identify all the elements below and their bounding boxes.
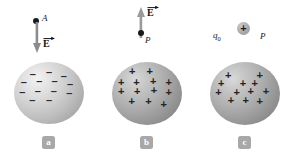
point-p-label: P	[260, 32, 266, 41]
charge-sign-minus: –	[19, 86, 25, 97]
charge-sign-plus: +	[240, 78, 246, 89]
charge-sign-plus: +	[147, 65, 153, 76]
panel-label-c-text: c	[243, 138, 247, 147]
physics-figure-electric-field: A E – – – – –	[0, 0, 293, 158]
panel-label-c: c	[238, 136, 251, 149]
charge-sign-plus: +	[151, 85, 157, 96]
charged-sphere-a: – – – – – – – – – – – – –	[14, 62, 84, 124]
charge-sign-plus: +	[233, 86, 239, 97]
charge-sign-plus: +	[165, 77, 171, 88]
charge-sign-minus: –	[66, 88, 72, 99]
charge-sign-plus: +	[256, 96, 262, 107]
panel-b: E P + + + + + + + + + + + + + b	[98, 0, 195, 158]
charge-sign-plus: +	[215, 86, 221, 97]
panel-label-b: b	[140, 136, 153, 149]
charge-sign-plus: +	[150, 75, 156, 86]
charge-sign-plus: +	[218, 78, 224, 89]
charge-sign-plus: +	[161, 99, 167, 110]
point-p-dot	[138, 30, 144, 36]
point-a-label: A	[42, 14, 48, 23]
panel-b-annotation: E P	[98, 0, 195, 58]
charge-sign-minus: –	[21, 77, 27, 88]
charge-sign-minus: –	[29, 95, 35, 106]
charge-sign-minus: –	[52, 75, 58, 86]
vector-arrow-overbar-icon	[147, 5, 159, 9]
panel-c: q0 + P + + + + + + + + + + + + c	[196, 0, 293, 158]
charge-sign-plus: +	[242, 95, 248, 106]
point-p-label: P	[145, 36, 151, 45]
charge-sign-plus: +	[263, 85, 269, 96]
charge-sign-plus: +	[118, 76, 124, 87]
charge-sign-plus: +	[225, 70, 231, 81]
panel-a: A E – – – – –	[0, 0, 97, 158]
charge-sign-plus: +	[145, 96, 151, 107]
test-charge-particle: +	[237, 22, 250, 35]
charge-sign-plus: +	[165, 86, 171, 97]
panel-label-b-text: b	[144, 138, 149, 147]
field-label-b: E	[147, 5, 159, 18]
charge-sign-minus: –	[30, 68, 36, 79]
charge-sign-minus: –	[61, 70, 67, 81]
charged-sphere-b: + + + + + + + + + + + + +	[112, 62, 182, 125]
charge-sign-plus: +	[252, 78, 258, 89]
charge-sign-minus: –	[51, 85, 57, 96]
charge-sign-minus: –	[36, 76, 42, 87]
charge-sign-minus: –	[35, 85, 41, 96]
charge-sign-minus: –	[46, 66, 52, 77]
field-arrow-down-icon	[33, 22, 41, 54]
charge-sign-plus: +	[129, 66, 135, 77]
vector-arrow-overbar-icon	[43, 36, 55, 40]
charge-sign-plus: +	[118, 85, 124, 96]
field-label-a: E	[43, 36, 55, 49]
charge-sign-minus: –	[46, 95, 52, 106]
charged-sphere-c: + + + + + + + + + + + +	[210, 62, 280, 125]
panel-a-annotation: A E	[0, 0, 97, 58]
test-charge-subscript: 0	[218, 35, 221, 42]
charge-sign-plus: +	[128, 96, 134, 107]
charge-sign-plus: +	[247, 85, 253, 96]
panel-label-a-text: a	[46, 138, 51, 147]
panel-label-a: a	[42, 136, 55, 149]
charge-sign-plus: +	[134, 85, 140, 96]
charge-sign-plus: +	[256, 69, 262, 80]
charge-sign-plus: +	[228, 95, 234, 106]
charge-sign-plus: +	[133, 76, 139, 87]
test-charge-label: q0	[213, 31, 221, 42]
panel-c-annotation: q0 + P	[196, 0, 293, 58]
test-charge-plus-sign: +	[240, 23, 246, 34]
charge-sign-minus: –	[67, 78, 73, 89]
